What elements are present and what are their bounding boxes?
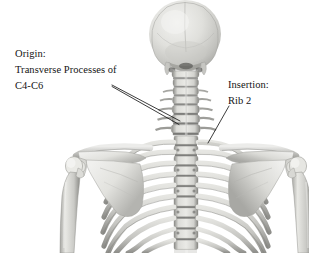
annotation-insertion: Insertion: Rib 2 <box>228 77 269 109</box>
annotation-origin-detail-2: C4-C6 <box>15 78 117 94</box>
annotation-origin-detail-1: Transverse Processes of <box>15 62 117 78</box>
humerus-right <box>288 157 309 253</box>
cranium <box>149 0 221 75</box>
annotation-origin-heading: Origin: <box>15 46 117 62</box>
annotation-insertion-detail-1: Rib 2 <box>228 93 269 109</box>
annotation-origin: Origin: Transverse Processes of C4-C6 <box>15 46 117 94</box>
annotation-insertion-heading: Insertion: <box>228 77 269 93</box>
humerus-left <box>60 157 84 253</box>
anatomy-figure: Origin: Transverse Processes of C4-C6 In… <box>0 0 309 253</box>
leader-lines <box>112 85 229 143</box>
leader-line-insertion <box>208 106 229 143</box>
thoracic-spine <box>174 135 198 253</box>
skeleton-illustration <box>0 0 309 253</box>
cervical-spine <box>156 70 217 136</box>
